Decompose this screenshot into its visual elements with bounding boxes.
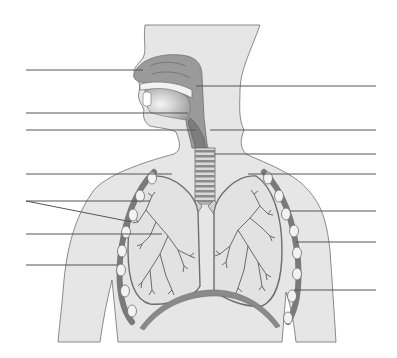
rib-cross-section bbox=[117, 264, 126, 276]
trachea-ring bbox=[195, 185, 215, 188]
diagram-canvas bbox=[0, 0, 397, 358]
trachea-ring bbox=[195, 160, 215, 163]
rib-cross-section bbox=[293, 247, 302, 259]
trachea-ring bbox=[195, 150, 215, 153]
rib-cross-section bbox=[293, 268, 302, 280]
rib-cross-section bbox=[275, 190, 284, 202]
trachea-ring bbox=[195, 165, 215, 168]
teeth bbox=[143, 92, 151, 106]
respiratory-diagram bbox=[0, 0, 397, 358]
trachea-ring bbox=[195, 195, 215, 198]
rib-cross-section bbox=[121, 285, 130, 297]
trachea-ring bbox=[195, 175, 215, 178]
rib-cross-section bbox=[118, 245, 127, 257]
rib-cross-section bbox=[122, 226, 131, 238]
rib-cross-section bbox=[136, 190, 145, 202]
rib-cross-section bbox=[129, 209, 138, 221]
rib-cross-section bbox=[284, 312, 293, 324]
rib-cross-section bbox=[128, 305, 137, 317]
trachea-ring bbox=[195, 180, 215, 183]
trachea-ring bbox=[195, 190, 215, 193]
trachea-ring bbox=[195, 170, 215, 173]
rib-cross-section bbox=[288, 290, 297, 302]
trachea-ring bbox=[195, 155, 215, 158]
rib-cross-section bbox=[290, 225, 299, 237]
rib-cross-section bbox=[282, 208, 291, 220]
